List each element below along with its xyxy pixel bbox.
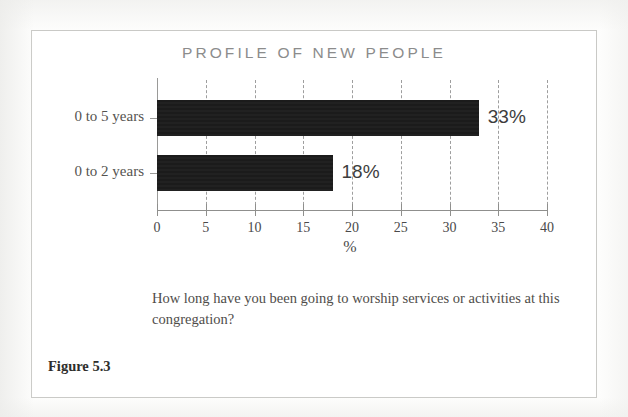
- x-axis-tick-label: 10: [235, 220, 275, 236]
- category-label: 0 to 5 years: [24, 108, 144, 125]
- category-label: 0 to 2 years: [24, 163, 144, 180]
- x-axis-tick: [206, 204, 207, 216]
- leader-line: [150, 173, 157, 174]
- x-axis-tick: [157, 204, 158, 216]
- scanned-page: PROFILE OF NEW PEOPLE 0510152025303540 3…: [0, 0, 628, 417]
- x-axis-tick-label: 30: [430, 220, 470, 236]
- x-axis-tick: [450, 204, 451, 216]
- x-axis-tick: [352, 204, 353, 216]
- bar-chart: 0510152025303540 33%18% 0 to 5 years0 to…: [0, 0, 628, 417]
- x-axis-tick: [255, 204, 256, 216]
- bar-value-label: 33%: [488, 106, 526, 128]
- x-axis-tick: [547, 204, 548, 216]
- bar: [157, 100, 479, 136]
- leader-line: [150, 118, 157, 119]
- x-axis-tick-label: 40: [527, 220, 567, 236]
- bar: [157, 155, 333, 191]
- x-axis-tick: [401, 204, 402, 216]
- figure-caption: How long have you been going to worship …: [152, 288, 572, 329]
- x-axis-tick-label: 25: [381, 220, 421, 236]
- x-axis-tick: [303, 204, 304, 216]
- x-axis-tick-label: 35: [478, 220, 518, 236]
- gridline: [547, 80, 548, 210]
- x-axis-tick: [498, 204, 499, 216]
- x-axis-tick-label: 0: [137, 220, 177, 236]
- bar-value-label: 18%: [342, 161, 380, 183]
- gridline: [498, 80, 499, 210]
- x-axis-tick-label: 20: [332, 220, 372, 236]
- x-axis-title: %: [330, 238, 370, 256]
- x-axis-tick-label: 5: [186, 220, 226, 236]
- x-axis-tick-label: 15: [283, 220, 323, 236]
- figure-number: Figure 5.3: [48, 358, 111, 375]
